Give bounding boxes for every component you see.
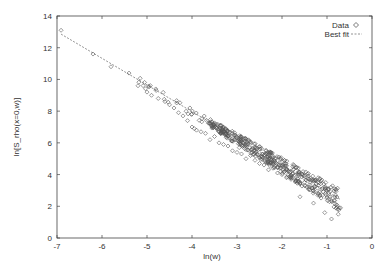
- x-tick-label: -3: [233, 242, 241, 251]
- data-points: [59, 28, 342, 221]
- x-tick-label: -1: [323, 242, 331, 251]
- y-tick-label: 6: [48, 139, 53, 148]
- scatter-chart: -7-6-5-4-3-2-10 02468101214 ln(w) ln[S_r…: [0, 0, 391, 262]
- y-tick-label: 14: [43, 12, 52, 21]
- y-tick-label: 4: [48, 171, 53, 180]
- y-axis-ticks: 02468101214: [43, 12, 372, 243]
- legend: Data Best fit: [325, 21, 362, 39]
- y-axis-label: ln[S_rho(x=0,w)]: [12, 98, 21, 156]
- y-tick-label: 0: [48, 234, 53, 243]
- legend-label-best-fit: Best fit: [325, 30, 350, 39]
- x-tick-label: -6: [98, 242, 106, 251]
- x-tick-label: -5: [143, 242, 151, 251]
- y-tick-label: 10: [43, 75, 52, 84]
- x-tick-label: -4: [188, 242, 196, 251]
- x-axis-label: ln(w): [203, 252, 221, 261]
- x-axis-ticks: -7-6-5-4-3-2-10: [53, 16, 374, 251]
- y-tick-label: 2: [48, 202, 53, 211]
- diamond-marker-icon: [354, 23, 359, 28]
- y-tick-label: 8: [48, 107, 53, 116]
- legend-label-data: Data: [332, 21, 349, 30]
- y-tick-label: 12: [43, 44, 52, 53]
- x-tick-label: -7: [53, 242, 61, 251]
- x-tick-label: 0: [370, 242, 375, 251]
- x-tick-label: -2: [278, 242, 286, 251]
